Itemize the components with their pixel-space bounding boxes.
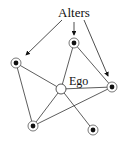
ego-network-diagram: Alters Ego — [0, 0, 126, 141]
edge-left-ego — [16, 63, 61, 89]
arrow-to-right — [84, 20, 108, 76]
ego-label: Ego — [69, 74, 88, 88]
node-right — [107, 82, 117, 92]
edge-left-bottomleft — [16, 63, 33, 126]
node-left — [11, 58, 21, 68]
node-top — [69, 38, 79, 48]
arrow-to-left — [26, 20, 62, 55]
node-ego — [56, 84, 66, 94]
edge-ego-bottomleft — [33, 89, 61, 126]
alters-label: Alters — [58, 5, 90, 20]
node-bottom-right — [88, 125, 98, 135]
edge-bottomleft-right — [33, 87, 112, 126]
node-bottom-left — [28, 121, 38, 131]
